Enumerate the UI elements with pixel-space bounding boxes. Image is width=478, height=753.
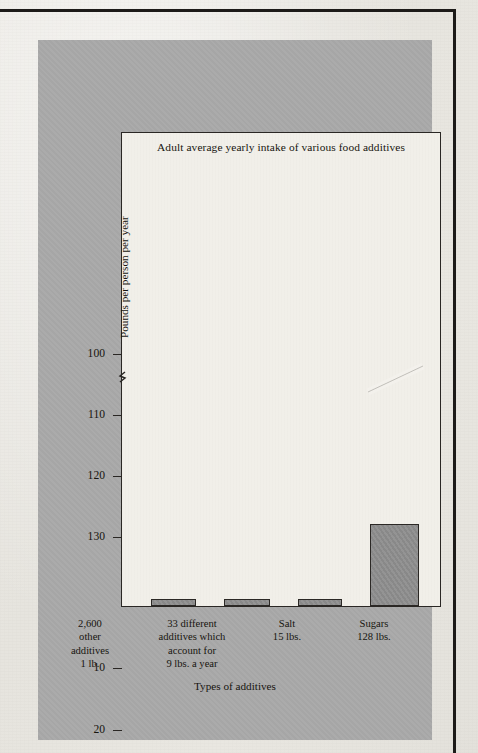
x-axis-category-line: additives which (134, 630, 250, 643)
bar (151, 599, 196, 606)
y-axis-tick (113, 537, 122, 538)
bar-texture (371, 525, 418, 605)
x-axis-category-label: 2,600otheradditives1 lb. (38, 617, 142, 671)
x-axis-category-line: additives (38, 644, 142, 657)
y-axis-tick-label: 130 (65, 531, 105, 543)
bar-texture (299, 600, 341, 605)
x-axis-category-line: 15 lbs. (242, 630, 332, 643)
x-axis-category-label: 33 differentadditives whichaccount for9 … (134, 617, 250, 671)
bar (298, 599, 342, 606)
y-axis-tick (113, 354, 122, 355)
bar (224, 599, 270, 606)
y-axis-tick-label: 20 (65, 724, 105, 736)
axis-break-icon (118, 370, 130, 385)
y-axis-tick-label: 100 (65, 348, 105, 360)
scanned-book-page: nitrates and nitrites which are used in … (0, 0, 478, 753)
y-axis-tick (113, 730, 122, 731)
x-axis-category-line: Sugars (324, 617, 424, 630)
x-axis-category-line: 1 lb. (38, 657, 142, 670)
bar-scale-break-slash (367, 361, 424, 395)
x-axis-category-line: other (38, 630, 142, 643)
plot-area: Adult average yearly intake of various f… (121, 132, 441, 607)
x-axis-title: Types of additives (38, 680, 432, 692)
x-axis-category-line: 9 lbs. a year (134, 657, 250, 670)
bar-texture (152, 600, 195, 605)
x-axis-category-line: 128 lbs. (324, 630, 424, 643)
figure-panel: Adult average yearly intake of various f… (38, 40, 432, 740)
x-axis-category-label: Salt15 lbs. (242, 617, 332, 644)
y-axis-title: Pounds per person per year (118, 216, 130, 338)
page-border-rule-top (0, 9, 455, 12)
chart-title: Adult average yearly intake of various f… (122, 141, 440, 153)
y-axis-tick-label: 120 (65, 470, 105, 482)
y-axis-tick (113, 476, 122, 477)
y-axis-tick-label: 110 (65, 409, 105, 421)
x-axis-category-label: Sugars128 lbs. (324, 617, 424, 644)
x-axis-category-line: 33 different (134, 617, 250, 630)
x-axis-category-line: 2,600 (38, 617, 142, 630)
x-axis-category-line: account for (134, 644, 250, 657)
page-border-rule-right (453, 9, 456, 753)
x-axis-category-line: Salt (242, 617, 332, 630)
y-axis-tick (113, 415, 122, 416)
bar-texture (225, 600, 269, 605)
bar (370, 524, 419, 606)
